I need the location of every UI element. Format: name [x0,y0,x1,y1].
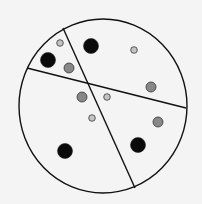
dividing-line-1 [27,68,186,108]
outer-circle [19,19,187,193]
medium-dot [153,117,163,127]
dividing-line-2 [63,28,135,188]
large-dot [58,144,73,159]
small-dot [89,115,96,122]
medium-dot [77,92,87,102]
large-dot [131,138,146,153]
medium-dot [64,63,74,73]
circle-partition-diagram [0,0,202,204]
small-dot [104,94,111,101]
small-dot [131,47,138,54]
dots-group [41,39,164,159]
large-dot [41,53,56,68]
dividing-lines [27,28,186,188]
medium-dot [146,82,156,92]
large-dot [84,39,99,54]
small-dot [57,40,64,47]
